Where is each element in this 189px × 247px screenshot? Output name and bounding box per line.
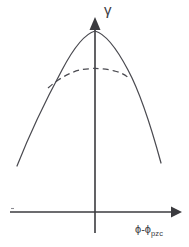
curve-solid-electrocapillary xyxy=(17,31,161,166)
x-axis-arrowhead xyxy=(171,207,182,218)
electrocapillary-figure: γ ϕ-ϕpzc xyxy=(0,0,189,247)
plot-canvas xyxy=(0,0,189,247)
curve-dashed-electrocapillary xyxy=(48,68,128,88)
y-axis-label: γ xyxy=(104,2,112,17)
y-axis-arrowhead xyxy=(90,17,101,30)
x-axis-label-subscript: pzc xyxy=(151,229,163,238)
x-axis-label: ϕ-ϕpzc xyxy=(135,224,163,235)
x-axis-label-main: ϕ-ϕ xyxy=(135,223,151,235)
